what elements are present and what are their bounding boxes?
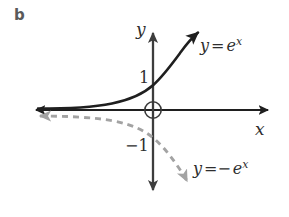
curve-negative-exponential — [40, 116, 187, 181]
curve-label-exp-var: y — [200, 36, 209, 55]
x-axis-label: x — [255, 121, 265, 138]
curve-label-negexp-exponent: x — [242, 158, 248, 171]
curve-label-exp-exponent: x — [236, 35, 242, 48]
y-axis-label: y — [136, 21, 146, 38]
curve-label-exp-op: = — [209, 36, 226, 55]
curve-label-negexp-base: e — [233, 159, 242, 178]
curve-label-exponential: y=ex — [200, 38, 242, 54]
figure-container: b y x 1 −1 y=ex y=−ex — [0, 0, 289, 217]
curve-label-negative-exponential: y=−ex — [193, 161, 248, 177]
curve-label-negexp-op: =− — [202, 159, 233, 178]
curve-label-exp-base: e — [226, 36, 235, 55]
panel-label: b — [14, 8, 25, 23]
y-tick-label-minus-1: −1 — [125, 138, 149, 154]
y-tick-label-1: 1 — [139, 70, 149, 86]
curve-exponential — [38, 33, 198, 109]
curve-label-negexp-var: y — [193, 159, 202, 178]
